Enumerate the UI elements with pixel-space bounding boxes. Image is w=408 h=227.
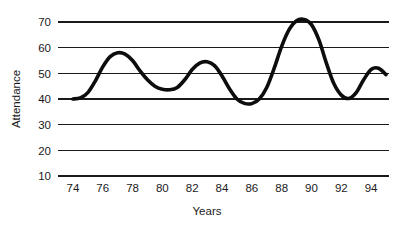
attendance-line-chart: 70605040302010 7476788082848688909294 At… — [0, 0, 408, 227]
y-tick-label-30: 30 — [38, 119, 51, 131]
x-axis-tick-labels: 7476788082848688909294 — [67, 182, 379, 194]
x-tick-label-88: 88 — [275, 182, 288, 194]
x-tick-label-84: 84 — [216, 182, 229, 194]
x-axis-title: Years — [193, 205, 222, 217]
y-axis-title: Attendance — [10, 70, 22, 128]
data-series-group — [73, 19, 386, 104]
y-tick-label-20: 20 — [38, 145, 51, 157]
x-tick-label-90: 90 — [305, 182, 318, 194]
x-tick-label-82: 82 — [186, 182, 199, 194]
y-tick-label-70: 70 — [38, 16, 51, 28]
y-tick-label-60: 60 — [38, 42, 51, 54]
x-tick-label-76: 76 — [96, 182, 109, 194]
chart-canvas: 70605040302010 7476788082848688909294 At… — [0, 0, 408, 227]
x-tick-label-86: 86 — [245, 182, 258, 194]
gridlines-group — [58, 22, 389, 176]
y-axis-tick-labels: 70605040302010 — [38, 16, 51, 182]
x-tick-label-94: 94 — [365, 182, 378, 194]
x-tick-label-80: 80 — [156, 182, 169, 194]
x-tick-label-92: 92 — [335, 182, 348, 194]
series-line-attendance — [73, 19, 386, 104]
y-tick-label-50: 50 — [38, 68, 51, 80]
x-tick-label-78: 78 — [126, 182, 139, 194]
y-tick-label-10: 10 — [38, 170, 51, 182]
x-tick-label-74: 74 — [67, 182, 80, 194]
y-tick-label-40: 40 — [38, 93, 51, 105]
